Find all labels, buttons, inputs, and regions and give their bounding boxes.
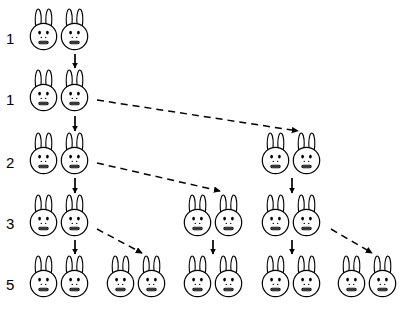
bunny-face-icon — [28, 8, 59, 52]
bunny-face-icon — [59, 69, 90, 113]
rabbit-pair — [260, 194, 322, 238]
bunny-face-icon — [28, 132, 59, 176]
rabbit-pair — [260, 255, 322, 299]
bunny-face-icon — [105, 255, 136, 299]
row-label-generation-3: 2 — [6, 155, 14, 170]
row-label-generation-1: 1 — [6, 31, 14, 46]
bunny-face-icon — [59, 194, 90, 238]
birth-arrow-row2-to-row3b — [97, 100, 298, 131]
bunny-face-icon — [136, 255, 167, 299]
rabbit-pair — [260, 132, 322, 176]
bunny-face-icon — [28, 255, 59, 299]
bunny-face-icon — [336, 255, 367, 299]
bunny-face-icon — [213, 194, 244, 238]
bunny-face-icon — [291, 255, 322, 299]
birth-arrow-row3-to-row4b — [97, 163, 220, 191]
rabbit-pair — [28, 69, 90, 113]
rabbit-pair — [28, 132, 90, 176]
row-label-generation-4: 3 — [6, 216, 14, 231]
bunny-face-icon — [59, 132, 90, 176]
bunny-face-icon — [291, 194, 322, 238]
bunny-face-icon — [291, 132, 322, 176]
bunny-face-icon — [182, 255, 213, 299]
bunny-face-icon — [260, 255, 291, 299]
bunny-face-icon — [367, 255, 398, 299]
row-label-generation-2: 1 — [6, 92, 14, 107]
bunny-face-icon — [260, 194, 291, 238]
fibonacci-rabbit-diagram: 1 1 2 3 5 — [0, 0, 406, 318]
birth-arrow-row4-to-row5e — [331, 229, 372, 253]
rabbit-pair — [336, 255, 398, 299]
rabbit-pair — [105, 255, 167, 299]
rabbit-pair — [28, 255, 90, 299]
bunny-face-icon — [28, 194, 59, 238]
birth-arrow-row4-to-row5b — [97, 229, 142, 253]
rabbit-pair — [28, 8, 90, 52]
bunny-face-icon — [28, 69, 59, 113]
rabbit-pair — [182, 194, 244, 238]
bunny-face-icon — [182, 194, 213, 238]
rabbit-pair — [182, 255, 244, 299]
bunny-face-icon — [260, 132, 291, 176]
rabbit-pair — [28, 194, 90, 238]
bunny-face-icon — [213, 255, 244, 299]
bunny-face-icon — [59, 255, 90, 299]
bunny-face-icon — [59, 8, 90, 52]
row-label-generation-5: 5 — [6, 277, 14, 292]
